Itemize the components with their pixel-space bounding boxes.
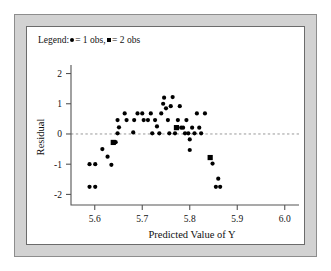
data-point-circle <box>131 130 135 134</box>
x-axis-title: Predicted Value of Y <box>148 229 236 240</box>
data-point-circle <box>218 185 222 189</box>
scatter-plot-svg: 5.65.75.85.96.0 210-1-2 Predicted Value … <box>27 27 306 246</box>
plot-card: Legend:= 1 obs,= 2 obs 5.65.75.85.96.0 2… <box>26 26 305 245</box>
data-point-circle <box>159 111 163 115</box>
data-point-circle <box>100 147 104 151</box>
data-point-circle <box>150 131 154 135</box>
y-tick-label: 1 <box>57 99 62 109</box>
x-tick-label: 6.0 <box>279 214 291 224</box>
data-point-circle <box>210 161 214 165</box>
data-point-circle <box>132 118 136 122</box>
data-point-circle <box>216 177 220 181</box>
figure-outer-panel: Legend:= 1 obs,= 2 obs 5.65.75.85.96.0 2… <box>14 14 317 257</box>
data-point-circle <box>171 95 175 99</box>
data-point-square <box>208 155 213 160</box>
data-point-circle <box>199 131 203 135</box>
data-point-circle <box>178 104 182 108</box>
data-point-circle <box>188 137 192 141</box>
x-axis-ticks: 5.65.75.85.96.0 <box>89 205 291 224</box>
data-point-circle <box>190 126 194 130</box>
data-point-circle <box>167 131 171 135</box>
data-point-circle <box>115 118 119 122</box>
data-point-circle <box>140 111 144 115</box>
y-axis-title: Residual <box>35 119 46 156</box>
data-point-circle <box>181 126 185 130</box>
data-point-circle <box>93 185 97 189</box>
data-point-circle <box>164 106 168 110</box>
y-axis-ticks: 210-1-2 <box>54 69 71 200</box>
y-tick-label: -2 <box>54 190 62 200</box>
data-point-circle <box>93 162 97 166</box>
figure-root: Legend:= 1 obs,= 2 obs 5.65.75.85.96.0 2… <box>0 0 331 271</box>
data-point-circle <box>192 131 196 135</box>
data-point-circle <box>117 125 121 129</box>
data-point-circle <box>105 155 109 159</box>
y-tick-label: -1 <box>54 160 62 170</box>
data-points-layer <box>87 95 222 189</box>
data-point-circle <box>153 118 157 122</box>
data-point-circle <box>142 118 146 122</box>
data-point-circle <box>87 162 91 166</box>
data-point-circle <box>87 185 91 189</box>
data-point-circle <box>162 96 166 100</box>
data-point-square <box>111 140 116 145</box>
y-tick-label: 2 <box>57 69 62 79</box>
x-tick-label: 5.7 <box>136 214 148 224</box>
data-point-circle <box>124 118 128 122</box>
data-point-circle <box>214 185 218 189</box>
data-point-circle <box>155 124 159 128</box>
data-point-circle <box>135 111 139 115</box>
data-point-circle <box>176 118 180 122</box>
data-point-circle <box>123 111 127 115</box>
x-tick-label: 5.9 <box>231 214 243 224</box>
y-tick-label: 0 <box>57 129 62 139</box>
data-point-circle <box>166 118 170 122</box>
data-point-circle <box>157 131 161 135</box>
data-point-circle <box>186 131 190 135</box>
x-tick-label: 5.6 <box>89 214 101 224</box>
x-tick-label: 5.8 <box>184 214 196 224</box>
data-point-circle <box>169 104 173 108</box>
axes-area: 5.65.75.85.96.0 210-1-2 Predicted Value … <box>27 27 306 246</box>
data-point-circle <box>146 118 150 122</box>
data-point-circle <box>184 118 188 122</box>
data-point-circle <box>195 111 199 115</box>
data-point-circle <box>203 111 207 115</box>
data-point-circle <box>188 148 192 152</box>
data-point-circle <box>197 126 201 130</box>
data-point-circle <box>109 163 113 167</box>
data-point-circle <box>149 111 153 115</box>
data-point-circle <box>173 131 177 135</box>
data-point-circle <box>161 102 165 106</box>
data-point-square <box>174 125 179 130</box>
data-point-circle <box>115 131 119 135</box>
